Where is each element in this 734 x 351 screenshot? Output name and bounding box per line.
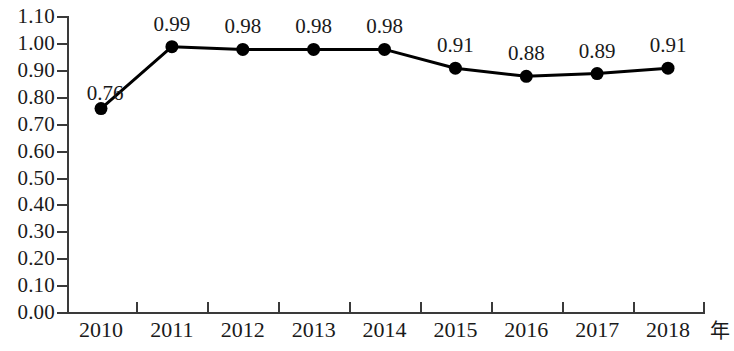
data-point-marker [236,43,249,56]
data-point-marker [307,43,320,56]
data-point-label: 0.89 [579,41,616,62]
data-point-marker [165,40,178,53]
series-plot [0,0,734,351]
data-point-marker [378,43,391,56]
line-chart: 1.101.000.900.800.700.600.500.400.300.20… [0,0,734,351]
x-axis-title: 年 [710,320,730,342]
data-point-label: 0.91 [437,35,474,56]
data-point-label: 0.88 [508,43,545,64]
data-point-label: 0.98 [366,16,403,37]
data-point-label: 0.91 [650,35,687,56]
data-point-label: 0.98 [224,16,261,37]
data-point-label: 0.98 [295,16,332,37]
data-point-label: 0.99 [154,14,191,35]
data-point-marker [662,62,675,75]
data-point-marker [591,67,604,80]
data-point-marker [520,70,533,83]
data-point-label: 0.76 [87,83,124,104]
data-point-marker [449,62,462,75]
